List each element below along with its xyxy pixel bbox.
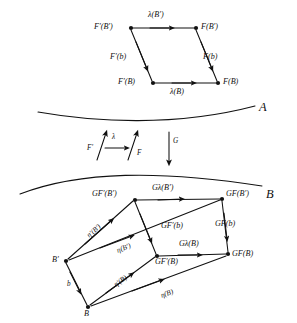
vertex-label-F-B: F(B) [223, 78, 238, 86]
edge-Fprime-b-arrowhead [136, 42, 147, 69]
lower-prism-vertex-dots [64, 197, 230, 309]
edge-label-lambda-B: λ(B) [170, 88, 184, 96]
edge-b-arrowhead [70, 272, 80, 292]
arrow-F [128, 133, 137, 160]
arrow-Fprime [97, 133, 106, 160]
edge-GFprime-b-arrowhead [140, 214, 151, 241]
arrow-label-G: G [173, 138, 178, 145]
edge-label-GF-b: GF(b) [215, 220, 235, 228]
category-A-curve [38, 106, 255, 121]
vertex-label-GFprime-Bprime: GF′(B′) [92, 190, 117, 198]
edge-label-Fprime-b: F′(b) [110, 53, 126, 61]
vertex-label-Fprime-Bprime: F′(B′) [94, 23, 113, 31]
edge-label-Glambda-B: Gλ(B) [179, 240, 199, 248]
arrow-label-Fprime: F′ [87, 145, 93, 152]
vertex-label-F-Bprime: F(B′) [201, 23, 218, 31]
diagram-vector-layer [0, 0, 297, 323]
vertex-label-Fprime-B: F′(B) [118, 78, 135, 86]
arrow-label-F: F [137, 150, 141, 157]
vertex-label-GF-B: GF(B) [232, 250, 253, 258]
edge-label-b: b [67, 281, 71, 288]
middle-arrow-group [97, 132, 169, 163]
diagram-canvas: F′(B′) F(B′) F′(B) F(B) λ(B′) λ(B) F′(b)… [0, 0, 297, 323]
vertex-label-Bprime: B′ [52, 256, 59, 264]
category-label-A: A [259, 101, 267, 114]
edge-label-GFprime-b: GF′(b) [161, 222, 183, 230]
vertex-label-B: B [84, 310, 89, 318]
category-label-B: B [266, 188, 274, 201]
edge-eta-B-arrowhead [132, 280, 162, 291]
vertex-label-GF-Bprime: GF(B′) [226, 190, 249, 198]
edge-label-lambda-Bprime: λ(B′) [148, 11, 164, 19]
vertex-label-GFprime-B: GF′(B) [155, 258, 178, 266]
arrow-label-lambda: λ [112, 134, 115, 141]
edge-label-F-b: F(b) [203, 53, 217, 61]
edge-label-Glambda-Bprime: Gλ(B′) [152, 184, 173, 192]
lower-prism-edges [66, 199, 228, 306]
